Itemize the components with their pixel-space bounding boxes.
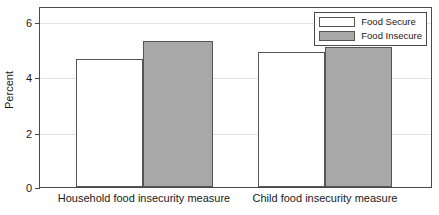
y-tick-mark-6 [35,23,40,24]
legend-item-food-secure: Food Secure [319,16,422,28]
bar-household-food-secure [76,59,143,187]
legend-swatch-food-secure [319,17,355,27]
y-tick-mark-0 [35,188,40,189]
bar-household-food-insecure [143,41,213,187]
x-axis-label-household: Household food insecurity measure [58,192,230,204]
y-axis-title: Percent [3,60,15,120]
bar-child-food-insecure [325,47,392,187]
bar-chart-figure: Percent 6 4 2 0 [0,0,439,215]
y-tick-mark-2 [35,134,40,135]
x-axis-label-child: Child food insecurity measure [253,192,398,204]
legend-label-food-secure: Food Secure [361,17,415,27]
y-tick-label-4: 4 [26,73,32,84]
y-tick-label-2: 2 [26,128,32,139]
legend: Food Secure Food Insecure [314,12,427,46]
y-tick-mark-4 [35,78,40,79]
y-tick-label-0: 0 [26,183,32,194]
legend-item-food-insecure: Food Insecure [319,30,422,42]
plot-area: 6 4 2 0 Food Secure [39,7,432,188]
legend-label-food-insecure: Food Insecure [361,31,422,41]
legend-swatch-food-insecure [319,31,355,41]
bar-child-food-secure [258,52,325,187]
y-tick-label-6: 6 [26,18,32,29]
